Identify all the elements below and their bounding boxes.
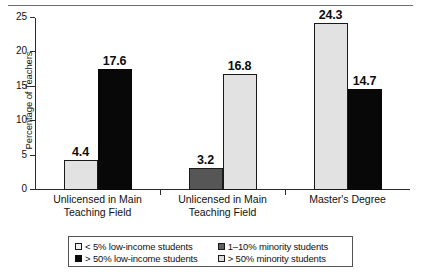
legend-swatch-icon-dark [218, 243, 225, 250]
bar-value-label: 17.6 [103, 54, 127, 68]
bar-minority_gt50: 16.8 [223, 74, 257, 190]
bar-minority_1_10: 3.2 [189, 168, 223, 190]
y-tick-label: 5 [21, 149, 27, 160]
legend-item-low-income-lt5: < 5% low-income students [75, 241, 218, 252]
bar-minority_gt50: 24.3 [314, 23, 348, 190]
legend-row-2: > 50% low-income students > 50% minority… [75, 253, 346, 266]
legend-item-minority-gt50: > 50% minority students [218, 253, 346, 264]
legend-label: 1–10% minority students [228, 241, 329, 252]
legend-swatch-icon-black [75, 255, 82, 262]
legend-label: > 50% minority students [228, 253, 326, 264]
legend-swatch-icon-lightgray [218, 255, 225, 262]
y-tick-label: 10 [16, 114, 27, 125]
bar-chart-figure: Percentage of Teachers 0510152025 4.417.… [0, 0, 421, 272]
plot-area: 0510152025 4.417.63.216.824.314.7 [35, 18, 410, 190]
bar-low_income_gt50: 14.7 [348, 89, 382, 190]
bar-value-label: 14.7 [353, 74, 377, 88]
y-tick-label: 0 [21, 183, 27, 194]
x-category-label: Unlicensed in MainTeaching Field [35, 193, 160, 219]
x-category-label-line: Unlicensed in Main [160, 193, 285, 206]
y-tick: 5 [30, 155, 35, 156]
x-category-label-line: Teaching Field [160, 206, 285, 219]
bar-value-label: 4.4 [72, 145, 89, 159]
legend-swatch-icon-light [75, 243, 82, 250]
legend-row-1: < 5% low-income students 1–10% minority … [75, 240, 346, 253]
x-category-label-line: Teaching Field [35, 206, 160, 219]
bar-value-label: 3.2 [197, 153, 214, 167]
y-tick-label: 25 [16, 11, 27, 22]
x-category-label-line: Unlicensed in Main [35, 193, 160, 206]
y-tick: 25 [30, 17, 35, 18]
y-tick: 0 [30, 189, 35, 190]
top-divider-rule [8, 5, 413, 6]
chart-legend: < 5% low-income students 1–10% minority … [68, 236, 353, 267]
bar-low_income_gt50: 17.6 [98, 69, 132, 190]
x-category-label: Master's Degree [285, 193, 410, 206]
legend-item-minority-1-10: 1–10% minority students [218, 241, 346, 252]
y-tick: 15 [30, 86, 35, 87]
y-tick: 20 [30, 51, 35, 52]
bar-low_income_lt5: 4.4 [64, 160, 98, 190]
legend-label: > 50% low-income students [85, 253, 198, 264]
legend-item-low-income-gt50: > 50% low-income students [75, 253, 218, 264]
bar-value-label: 16.8 [228, 59, 252, 73]
y-tick-label: 20 [16, 45, 27, 56]
legend-label: < 5% low-income students [85, 241, 193, 252]
y-axis-line [35, 18, 36, 190]
y-tick: 10 [30, 120, 35, 121]
x-category-label-line: Master's Degree [285, 193, 410, 206]
bar-value-label: 24.3 [319, 8, 343, 22]
x-category-label: Unlicensed in MainTeaching Field [160, 193, 285, 219]
y-tick-label: 15 [16, 80, 27, 91]
